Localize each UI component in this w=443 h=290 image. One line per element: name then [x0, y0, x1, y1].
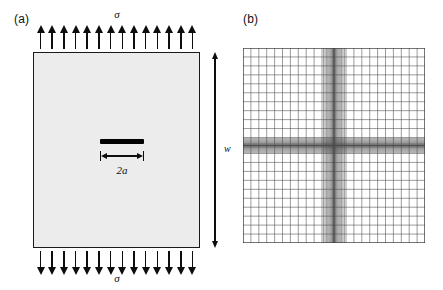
tension-arrow [154, 251, 161, 275]
tension-arrow [142, 251, 149, 275]
arrow-head [72, 25, 80, 33]
tension-arrow [37, 251, 44, 275]
tension-arrow [154, 25, 161, 49]
arrow-shaft [75, 31, 77, 49]
tension-arrow [166, 251, 173, 275]
figure-root: (a) σ 2a σ w (b) [0, 0, 443, 290]
tension-arrows-top [33, 24, 200, 50]
arrow-head [153, 267, 161, 275]
crack-dim-arrowhead-left [101, 153, 107, 159]
arrow-shaft [40, 31, 42, 49]
arrow-shaft [192, 31, 194, 49]
tension-arrow [37, 25, 44, 49]
arrow-head [107, 25, 115, 33]
arrow-head [37, 25, 45, 33]
arrow-head [130, 25, 138, 33]
arrow-head [177, 25, 185, 33]
crack-length-dimension [100, 151, 144, 161]
arrow-shaft [145, 31, 147, 49]
crack-dim-arrowhead-right [137, 153, 143, 159]
panel-b-label: (b) [243, 12, 258, 26]
tension-arrow [60, 251, 67, 275]
mesh-svg [243, 48, 425, 243]
crack-dim-line [105, 155, 139, 156]
plate-width-dimension [209, 52, 221, 248]
arrow-head [72, 267, 80, 275]
arrow-shaft [86, 31, 88, 49]
arrow-head [118, 25, 126, 33]
tension-arrow [72, 25, 79, 49]
tension-arrow [189, 251, 196, 275]
arrow-head [83, 267, 91, 275]
arrow-shaft [110, 31, 112, 49]
width-dim-arrowhead-top [212, 52, 218, 59]
arrow-head [130, 267, 138, 275]
plate-width-label: w [224, 143, 231, 154]
cracked-plate [33, 52, 200, 248]
tension-arrow [84, 25, 91, 49]
tension-arrow [95, 25, 102, 49]
tension-arrow [131, 25, 138, 49]
arrow-shaft [157, 31, 159, 49]
tension-arrow [107, 25, 114, 49]
arrow-shaft [122, 31, 124, 49]
tension-arrow [72, 251, 79, 275]
tension-arrow [142, 25, 149, 49]
tension-arrow [177, 25, 184, 49]
width-dim-arrowhead-bottom [212, 241, 218, 248]
arrow-shaft [168, 31, 170, 49]
arrow-head [165, 25, 173, 33]
arrow-shaft [180, 31, 182, 49]
tension-arrow [95, 251, 102, 275]
arrow-head [188, 267, 196, 275]
arrow-head [48, 25, 56, 33]
crack-line [100, 139, 144, 144]
tension-arrow [119, 25, 126, 49]
arrow-head [142, 25, 150, 33]
arrow-shaft [51, 31, 53, 49]
arrow-head [165, 267, 173, 275]
tension-arrow [84, 251, 91, 275]
stress-label-bottom: σ [107, 272, 127, 284]
finite-element-mesh [243, 48, 425, 243]
stress-label-top: σ [107, 8, 127, 20]
panel-a-label: (a) [14, 12, 29, 26]
arrow-head [153, 25, 161, 33]
tension-arrow [166, 25, 173, 49]
tension-arrow [49, 251, 56, 275]
width-dim-line [214, 59, 215, 241]
arrow-head [37, 267, 45, 275]
arrow-head [142, 267, 150, 275]
arrow-head [48, 267, 56, 275]
arrow-head [177, 267, 185, 275]
tension-arrow [131, 251, 138, 275]
arrow-shaft [133, 31, 135, 49]
tension-arrow [177, 251, 184, 275]
arrow-head [60, 25, 68, 33]
tension-arrow [189, 25, 196, 49]
arrow-shaft [63, 31, 65, 49]
arrow-head [95, 267, 103, 275]
arrow-head [95, 25, 103, 33]
arrow-head [83, 25, 91, 33]
arrow-shaft [98, 31, 100, 49]
tension-arrow [60, 25, 67, 49]
crack-length-label: 2a [100, 164, 144, 176]
arrow-head [188, 25, 196, 33]
tension-arrow [49, 25, 56, 49]
arrow-head [60, 267, 68, 275]
